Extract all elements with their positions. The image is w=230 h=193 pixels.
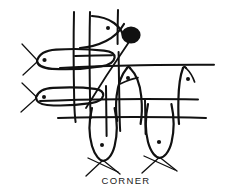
- figure-background: [0, 0, 230, 193]
- fish-upper-left-eye: [42, 58, 46, 62]
- fish-top-center-eye: [106, 26, 110, 30]
- fish-bottom-right-eye: [157, 140, 161, 144]
- fish-mid-center-nose: [127, 67, 130, 68]
- ink-blob: [121, 26, 140, 43]
- grid-vertical-4: [106, 86, 107, 136]
- corner-line-drawing: CORNER: [0, 0, 230, 193]
- grid-horizontal-3: [58, 117, 206, 118]
- figure-canvas: CORNER: [0, 0, 230, 193]
- fish-mid-right-eye: [186, 77, 190, 81]
- fish-mid-right-nose: [183, 67, 186, 68]
- grid-horizontal-4: [75, 55, 112, 56]
- fish-bottom-left-eye: [100, 143, 104, 147]
- fish-lower-left-eye: [42, 95, 46, 99]
- caption-label: CORNER: [102, 175, 151, 186]
- fish-mid-center-eye: [126, 76, 130, 80]
